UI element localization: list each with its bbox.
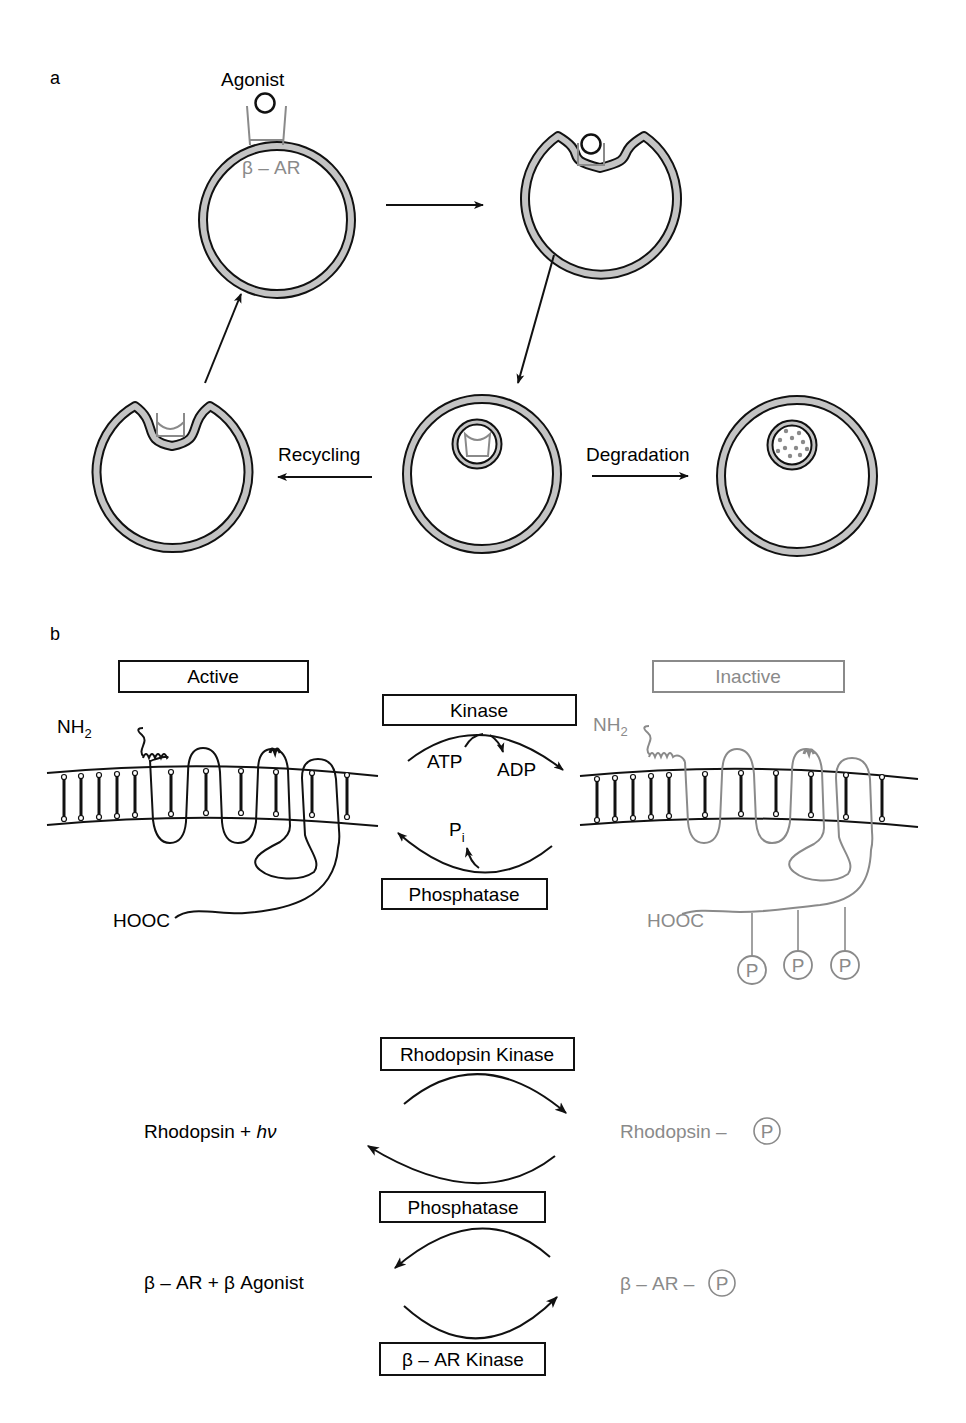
pi-label: Pi — [449, 819, 465, 845]
active-label: Active — [187, 666, 239, 687]
cell-recycling — [97, 406, 249, 548]
svg-text:P: P — [746, 960, 759, 981]
arrow-to-endosome — [518, 255, 554, 383]
svg-text:P: P — [839, 955, 852, 976]
recycling-label: Recycling — [278, 444, 360, 465]
phosphate-icon: P — [754, 1118, 780, 1144]
beta-ar-dephosphorylation-arrow — [395, 1229, 550, 1268]
beta-ar-phosphorylation-arrow — [404, 1297, 557, 1338]
beta-ar-reactant: β – AR + β Agonist — [144, 1272, 304, 1293]
nh2-label-inactive: NH2 — [593, 714, 628, 739]
phosphate-icon: P — [709, 1270, 735, 1296]
n-terminus-coil-icon — [644, 726, 685, 762]
hooc-label-inactive: HOOC — [647, 910, 704, 931]
rhodopsin-dephosphorylation-arrow — [368, 1146, 555, 1183]
phosphate-icon: P — [784, 951, 812, 979]
beta-ar-kinase-label: β – AR Kinase — [402, 1349, 524, 1370]
arrow-return-to-surface — [205, 294, 241, 383]
svg-text:P: P — [792, 955, 805, 976]
panel-b-label: b — [50, 624, 60, 644]
cell-surface-receptor — [203, 94, 351, 295]
rhodopsin-phosphorylated: Rhodopsin – — [620, 1121, 727, 1142]
cell-endosome — [407, 399, 557, 549]
n-terminus-coil-icon — [138, 728, 167, 762]
beta-ar-phosphorylated: β – AR – — [620, 1273, 695, 1294]
pi-out-arrow — [467, 848, 479, 868]
agonist-label: Agonist — [221, 69, 285, 90]
inactive-label: Inactive — [715, 666, 780, 687]
inactive-receptor: P P P — [580, 726, 918, 984]
rhodopsin-reactant: Rhodopsin + hν — [144, 1121, 277, 1142]
phosphate-icon: P — [738, 956, 766, 984]
reaction-phosphatase-label: Phosphatase — [408, 1197, 519, 1218]
lipid-bilayer-icon — [62, 769, 350, 822]
hooc-label-active: HOOC — [113, 910, 170, 931]
panel-a-label: a — [50, 68, 61, 88]
rhodopsin-kinase-label: Rhodopsin Kinase — [400, 1044, 554, 1065]
atp-label: ATP — [427, 751, 463, 772]
phosphate-icon: P — [831, 951, 859, 979]
figure-canvas: a Agonist β – AR Recycling Degradation — [0, 0, 966, 1423]
lipid-bilayer-icon — [595, 771, 885, 823]
rhodopsin-phosphorylation-arrow — [404, 1074, 566, 1113]
nh2-label-active: NH2 — [57, 716, 92, 741]
active-receptor — [47, 728, 378, 918]
agonist-icon — [256, 94, 275, 113]
adp-label: ADP — [497, 759, 536, 780]
cell-invaginating — [525, 135, 677, 275]
cell-lysosome — [721, 400, 873, 552]
phosphatase-reaction-arrow — [398, 833, 552, 873]
svg-text:P: P — [716, 1273, 729, 1294]
receptor-label: β – AR — [242, 157, 300, 178]
phosphatase-label: Phosphatase — [409, 884, 520, 905]
svg-text:P: P — [761, 1121, 774, 1142]
kinase-label: Kinase — [450, 700, 508, 721]
degradation-label: Degradation — [586, 444, 690, 465]
degraded-fragments-icon — [776, 429, 809, 458]
